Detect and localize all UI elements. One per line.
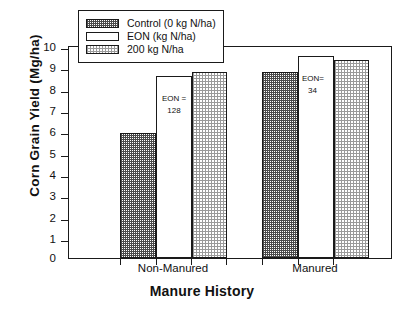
y-tick-label-5: 5 bbox=[50, 149, 56, 161]
x-axis-tick-labels: Non-Manured Manured bbox=[68, 262, 392, 278]
y-tick-label-7: 7 bbox=[50, 106, 56, 118]
bar-nonmanured-control[interactable] bbox=[120, 133, 156, 258]
legend-label-control: Control (0 kg N/ha) bbox=[127, 18, 216, 29]
bar-nonmanured-200[interactable] bbox=[192, 72, 227, 258]
bar-manured-control[interactable] bbox=[262, 72, 298, 258]
annotation-eon-nonmanured-line1: EON = bbox=[156, 93, 192, 105]
y-tick-1 bbox=[61, 241, 68, 242]
x-tick-label-manured: Manured bbox=[292, 262, 337, 274]
legend-label-200: 200 kg N/ha bbox=[127, 44, 184, 55]
chart-legend: Control (0 kg N/ha) EON (kg N/ha) 200 kg… bbox=[78, 10, 224, 63]
y-tick-label-3: 3 bbox=[50, 191, 56, 203]
light-dotted-swatch-icon bbox=[86, 45, 119, 54]
y-tick-label-6: 6 bbox=[50, 128, 56, 140]
y-tick-label-9: 9 bbox=[50, 64, 56, 76]
y-tick-10 bbox=[61, 49, 68, 50]
x-tick-label-non-manured: Non-Manured bbox=[138, 262, 208, 274]
y-tick-7 bbox=[61, 113, 68, 114]
y-tick-3 bbox=[61, 198, 68, 199]
y-tick-5 bbox=[61, 156, 68, 157]
annotation-eon-manured: EON= 34 bbox=[302, 73, 338, 96]
legend-label-eon: EON (kg N/ha) bbox=[127, 31, 196, 42]
y-tick-label-4: 4 bbox=[50, 170, 56, 182]
legend-item-control[interactable]: Control (0 kg N/ha) bbox=[86, 17, 215, 30]
plot-frame: EON = 128 EON= 34 bbox=[68, 46, 392, 259]
y-tick-label-8: 8 bbox=[50, 85, 56, 97]
y-tick-8 bbox=[61, 92, 68, 93]
y-tick-4 bbox=[61, 177, 68, 178]
y-tick-label-10: 10 bbox=[43, 42, 56, 54]
y-axis-title: Corn Grain Yield (Mg/ha) bbox=[27, 0, 42, 236]
y-tick-label-1: 1 bbox=[50, 234, 56, 246]
y-tick-2 bbox=[61, 220, 68, 221]
y-tick-label-0: 0 bbox=[50, 253, 56, 265]
annotation-eon-nonmanured: EON = 128 bbox=[156, 93, 192, 116]
bar-manured-200[interactable] bbox=[334, 60, 369, 258]
annotation-eon-manured-line2: 34 bbox=[302, 85, 338, 97]
y-tick-9 bbox=[61, 70, 68, 71]
annotation-eon-nonmanured-line2: 128 bbox=[156, 105, 192, 117]
legend-item-200[interactable]: 200 kg N/ha bbox=[86, 43, 215, 56]
plot-area: EON = 128 EON= 34 bbox=[69, 47, 391, 258]
dark-crosshatch-swatch-icon bbox=[86, 19, 119, 28]
white-swatch-icon bbox=[86, 32, 119, 41]
legend-item-eon[interactable]: EON (kg N/ha) bbox=[86, 30, 215, 43]
chart-figure: 10 9 8 7 6 5 4 3 2 1 0 Corn Grain Yield … bbox=[0, 0, 404, 312]
y-tick-label-2: 2 bbox=[50, 213, 56, 225]
x-axis-title: Manure History bbox=[0, 283, 404, 299]
annotation-eon-manured-line1: EON= bbox=[302, 73, 338, 85]
y-tick-6 bbox=[61, 134, 68, 135]
